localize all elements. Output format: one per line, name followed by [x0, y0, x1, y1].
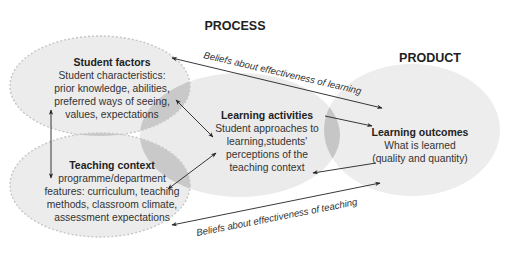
learning-activities-line: perceptions of the: [226, 149, 308, 160]
process-header: PROCESS: [204, 19, 265, 33]
node-learning-activities: Learning activities Student approaches t…: [215, 109, 319, 173]
learning-activities-line: Student approaches to: [215, 123, 319, 134]
student-factors-title: Student factors: [73, 56, 150, 68]
learning-activities-title: Learning activities: [221, 109, 313, 121]
student-factors-line: prior knowledge, abilities,: [54, 83, 170, 94]
teaching-context-title: Teaching context: [69, 159, 155, 171]
label-beliefs-teaching: Beliefs about effectiveness of teaching: [195, 196, 358, 238]
student-factors-line: values, expectations: [65, 109, 158, 120]
learning-activities-line: teaching context: [230, 162, 305, 173]
teaching-context-line: assessment expectations: [54, 212, 170, 223]
process-product-diagram: PROCESS PRODUCT Student factors Student …: [0, 0, 507, 253]
learning-outcomes-line: (quality and quantity): [372, 153, 468, 164]
teaching-context-line: features: curriculum, teaching: [44, 186, 179, 197]
node-learning-outcomes: Learning outcomes What is learned (quali…: [372, 126, 469, 164]
teaching-context-line: methods, classroom climate,: [47, 199, 177, 210]
learning-outcomes-line: What is learned: [384, 140, 456, 151]
learning-activities-line: learning,students': [227, 136, 307, 147]
learning-outcomes-title: Learning outcomes: [372, 126, 469, 138]
student-factors-line: preferred ways of seeing,: [54, 96, 170, 107]
student-factors-line: Student characteristics:: [58, 70, 165, 81]
product-header: PRODUCT: [399, 51, 461, 65]
teaching-context-line: programme/department: [58, 173, 166, 184]
